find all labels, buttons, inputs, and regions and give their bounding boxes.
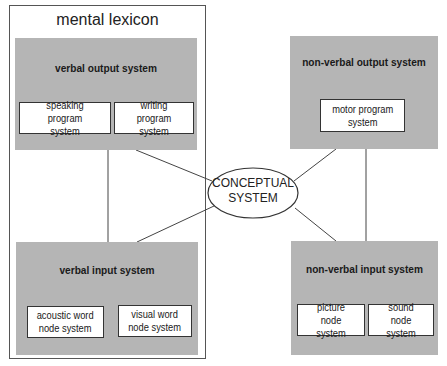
picture-line1: picture node xyxy=(306,301,356,327)
sound-line2: system xyxy=(377,327,426,340)
conceptual-system-label: CONCEPTUAL SYSTEM xyxy=(208,176,298,206)
writing-program-system-box: writing programsystem xyxy=(114,102,194,134)
visual-line2: node system xyxy=(129,321,182,334)
conceptual-label-line1: CONCEPTUAL xyxy=(208,176,298,191)
acoustic-word-node-system-box: acoustic wordnode system xyxy=(27,306,104,338)
connector-verbal-output-to-conceptual xyxy=(136,150,212,181)
motor-program-system-box: motor programsystem xyxy=(320,99,405,132)
sound-line1: sound node xyxy=(377,301,426,327)
nonverbal-input-title: non-verbal input system xyxy=(300,263,429,275)
visual-word-node-system-box: visual wordnode system xyxy=(118,305,192,337)
writing-line1: writing program xyxy=(124,99,184,125)
verbal-input-title: verbal input system xyxy=(27,264,187,276)
motor-line1: motor program xyxy=(332,103,393,116)
connector-nonverbal-output-to-conceptual xyxy=(294,149,336,181)
verbal-output-title: verbal output system xyxy=(26,62,186,74)
motor-line2: system xyxy=(332,116,393,129)
speaking-program-system-box: speaking programsystem xyxy=(19,102,111,134)
picture-node-system-box: picture nodesystem xyxy=(297,304,365,336)
connector-verbal-input-to-conceptual xyxy=(137,206,214,242)
speaking-line2: system xyxy=(30,125,100,138)
speaking-line1: speaking program xyxy=(30,99,100,125)
acoustic-line1: acoustic word xyxy=(37,309,94,322)
visual-line1: visual word xyxy=(129,308,182,321)
acoustic-line2: node system xyxy=(37,322,94,335)
verbal-input-system-panel: verbal input system xyxy=(16,242,198,355)
picture-line2: system xyxy=(306,327,356,340)
conceptual-label-line2: SYSTEM xyxy=(208,191,298,206)
nonverbal-output-system-panel: non-verbal output system xyxy=(290,36,438,149)
nonverbal-output-title: non-verbal output system xyxy=(299,56,429,68)
connector-nonverbal-input-to-conceptual xyxy=(295,208,336,241)
writing-line2: system xyxy=(124,125,184,138)
sound-node-system-box: sound nodesystem xyxy=(368,304,434,336)
